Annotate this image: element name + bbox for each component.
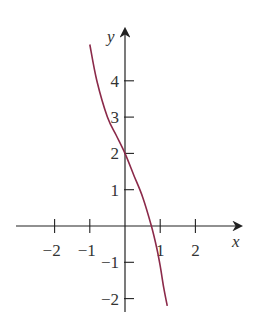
y-axis-label: y bbox=[105, 27, 115, 46]
y-tick-label: 2 bbox=[111, 144, 120, 163]
axes: xy bbox=[16, 27, 241, 312]
y-tick-label: 4 bbox=[111, 72, 120, 91]
x-axis-label: x bbox=[231, 232, 240, 251]
x-tick-label: 2 bbox=[191, 241, 200, 260]
y-tick-label: −2 bbox=[101, 290, 119, 309]
x-tick-label: −2 bbox=[43, 241, 61, 260]
y-tick-label: −1 bbox=[101, 253, 119, 272]
x-tick-label: −1 bbox=[78, 241, 96, 260]
plot-area: xy −2−112−2−11234 bbox=[0, 0, 260, 323]
y-tick-label: 1 bbox=[111, 181, 120, 200]
y-tick-label: 3 bbox=[111, 108, 120, 127]
ticks: −2−112−2−11234 bbox=[43, 72, 200, 309]
